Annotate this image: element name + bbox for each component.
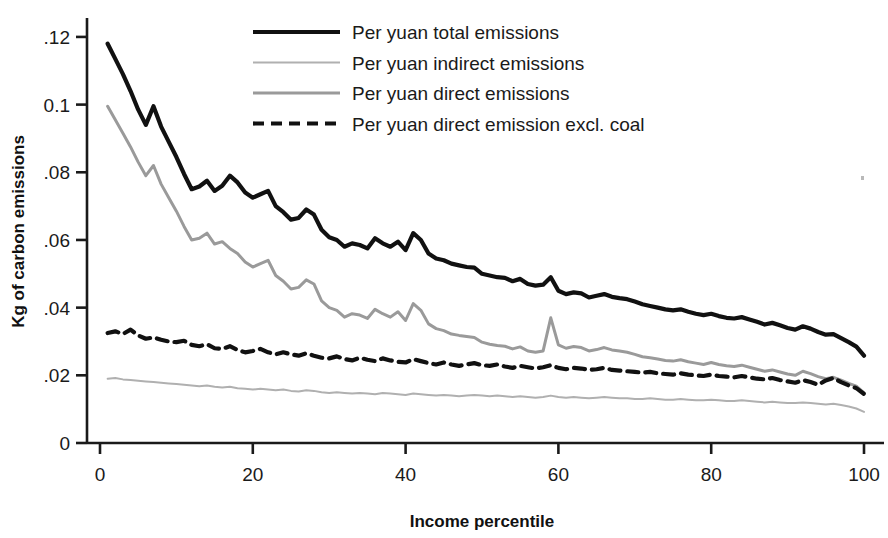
legend-label-0: Per yuan total emissions bbox=[352, 22, 559, 43]
y-tick-label: .08 bbox=[44, 162, 70, 183]
series-line-per-yuan-indirect-emissions bbox=[108, 378, 864, 412]
legend-label-3: Per yuan direct emission excl. coal bbox=[352, 114, 645, 135]
y-tick-label: 0 bbox=[59, 433, 70, 454]
chart-figure: Per yuan total emissionsPer yuan indirec… bbox=[0, 0, 888, 538]
series-line-per-yuan-direct-emission-excl-coal bbox=[108, 330, 864, 394]
x-axis-title: Income percentile bbox=[410, 512, 555, 531]
y-tick-label: .02 bbox=[44, 365, 70, 386]
x-tick-label: 20 bbox=[242, 464, 263, 485]
x-tick-label: 80 bbox=[701, 464, 722, 485]
y-tick-label: .12 bbox=[44, 27, 70, 48]
x-tick-label: 100 bbox=[848, 464, 880, 485]
legend-layer: Per yuan total emissionsPer yuan indirec… bbox=[253, 22, 645, 135]
page-speck bbox=[861, 176, 864, 180]
y-tick-label: .04 bbox=[44, 298, 71, 319]
x-tick-label: 0 bbox=[95, 464, 106, 485]
y-axis-title: Kg of carbon emissions bbox=[9, 135, 28, 328]
y-tick-label: 0.1 bbox=[44, 95, 70, 116]
y-tick-label: .06 bbox=[44, 230, 70, 251]
legend-label-1: Per yuan indirect emissions bbox=[352, 53, 584, 74]
legend-label-2: Per yuan direct emissions bbox=[352, 83, 570, 104]
x-tick-label: 40 bbox=[395, 464, 416, 485]
series-line-per-yuan-direct-emissions bbox=[108, 106, 864, 393]
x-tick-label: 60 bbox=[548, 464, 569, 485]
emissions-line-chart: Per yuan total emissionsPer yuan indirec… bbox=[0, 0, 888, 538]
